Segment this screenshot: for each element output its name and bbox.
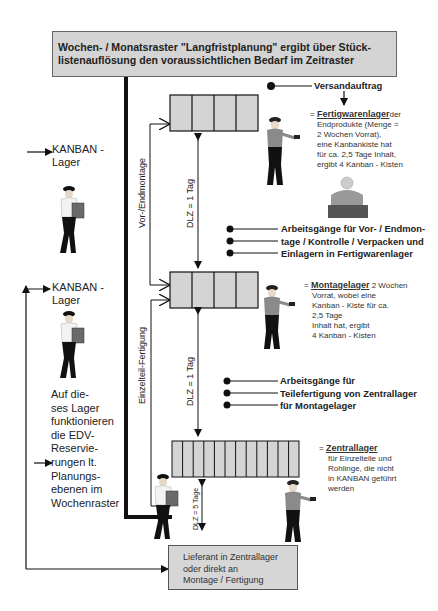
- main-flow-line: [124, 77, 172, 517]
- kanban-lager-label-1: KANBAN - Lager: [52, 143, 104, 169]
- label-dlz-mid: DLZ = 1 Tag: [185, 357, 195, 406]
- fertigwarenlager-description: = Fertigwarenlagerder Endprodukte (Menge…: [310, 109, 435, 170]
- edv-reservation-note: Auf die- ses Lager funktionieren die EDV…: [51, 388, 119, 510]
- label-dlz-bottom: DLZ = 5 Tage: [192, 488, 199, 530]
- versandauftrag-label: Versandauftrag: [314, 80, 382, 93]
- desk-worker-figure: [328, 177, 368, 218]
- worker-figure-4: [264, 285, 295, 349]
- zentrallager-title: Zentrallager: [326, 443, 378, 453]
- fertigwarenlager-title: Fertigwarenlager: [317, 109, 390, 119]
- zentrallager-description: = Zentrallager für Einzelteile und Rohli…: [319, 443, 434, 494]
- worker-figure-1: [60, 186, 84, 253]
- kanban-lager-label-2: KANBAN - Lager: [52, 281, 104, 307]
- worker-figure-3: [267, 117, 300, 185]
- worker-figure-2: [60, 311, 84, 378]
- bullets-teilefertigung: [224, 378, 279, 409]
- worker-figure-6: [285, 480, 316, 542]
- arbeitsgaenge-teilefertigung-text: Arbeitsgänge für Teilefertigung von Zent…: [280, 375, 417, 413]
- label-dlz-top: DLZ = 1 Tag: [185, 179, 195, 228]
- bullets-vor-end: [227, 226, 279, 257]
- arbeitsgaenge-vor-end-text: Arbeitsgänge für Vor- / Endmon- tage / K…: [281, 223, 425, 261]
- montagelager-description: = Montagelager 2 Wochen Vorrat, wobei ei…: [304, 280, 434, 341]
- label-vor-endmontage: Vor-/Endmontage: [137, 158, 147, 228]
- bin-fertigwarenlager: [170, 95, 258, 131]
- montagelager-title: Montagelager: [311, 280, 370, 290]
- worker-figure-5: [154, 474, 178, 539]
- supplier-box: Lieferant in Zentrallager oder direkt an…: [168, 545, 298, 590]
- bin-zentrallager: [172, 441, 299, 477]
- label-einzelteil-fertigung: Einzelteil-Fertigung: [137, 327, 147, 404]
- bin-montagelager: [170, 272, 258, 308]
